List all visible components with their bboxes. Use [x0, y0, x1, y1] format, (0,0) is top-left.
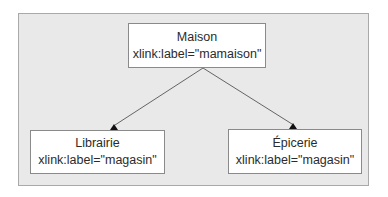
- node-attribute: xlink:label="mamaison": [133, 46, 262, 63]
- node-librairie: Librairie xlink:label="magasin": [30, 130, 165, 174]
- node-title: Librairie: [75, 135, 119, 152]
- node-title: Épicerie: [272, 135, 317, 152]
- node-title: Maison: [177, 29, 217, 46]
- node-epicerie: Épicerie xlink:label="magasin": [228, 129, 362, 174]
- node-attribute: xlink:label="magasin": [38, 152, 156, 169]
- node-maison: Maison xlink:label="mamaison": [128, 23, 266, 68]
- node-attribute: xlink:label="magasin": [236, 152, 354, 169]
